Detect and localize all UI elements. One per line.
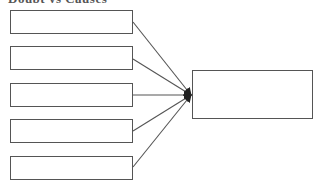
cause-box-4 [10, 119, 133, 143]
cause-box-3 [10, 83, 133, 107]
connector-arrow-2 [133, 59, 191, 95]
connector-arrow-1 [133, 22, 191, 95]
cause-box-5 [10, 156, 133, 180]
connector-arrow-5 [133, 95, 191, 167]
effect-box [192, 70, 313, 119]
cause-box-2 [10, 46, 133, 70]
connector-arrow-4 [133, 95, 191, 131]
cause-box-1 [10, 10, 133, 34]
